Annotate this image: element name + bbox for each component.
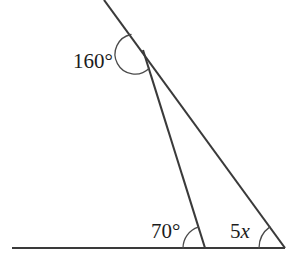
right-base-angle-variable: x: [241, 219, 250, 243]
left-base-angle-arc: [183, 227, 198, 248]
geometry-diagram: 160° 70° 5x: [0, 0, 297, 269]
right-base-angle-coefficient: 5: [230, 219, 241, 243]
diagram-canvas: [0, 0, 297, 269]
left-base-angle-label: 70°: [151, 221, 180, 242]
right-base-angle-arc: [259, 227, 270, 248]
right-base-angle-label: 5x: [230, 221, 250, 242]
top-angle-label: 160°: [73, 51, 113, 72]
upper-ray-line: [104, 0, 285, 248]
left-base-angle-value: 70°: [151, 219, 180, 243]
top-angle-value: 160°: [73, 49, 113, 73]
